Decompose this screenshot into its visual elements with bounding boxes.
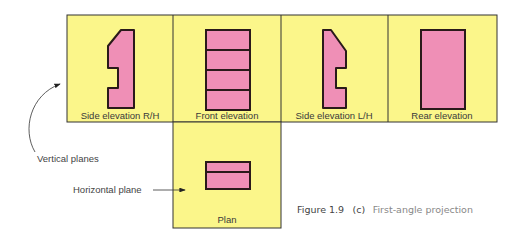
- figure-title: First-angle projection: [373, 204, 473, 215]
- plan-label: Plan: [217, 214, 236, 225]
- side-elevation-lh-label: Side elevation L/H: [295, 110, 372, 121]
- front-elevation-panel: Front elevation: [196, 30, 259, 121]
- figure-number: Figure 1.9: [297, 204, 344, 215]
- side-elevation-rh-label: Side elevation R/H: [81, 110, 160, 121]
- rear-elevation-panel: Rear elevation: [411, 30, 472, 121]
- plan-shape: [206, 162, 250, 189]
- first-angle-projection-diagram: Side elevation R/H Front elevation Side …: [0, 0, 517, 240]
- front-elevation-label: Front elevation: [196, 110, 259, 121]
- figure-caption: Figure 1.9 (c) First-angle projection: [297, 199, 473, 216]
- curved-arrow-icon: [29, 84, 60, 152]
- rear-elevation-label: Rear elevation: [411, 110, 472, 121]
- side-elevation-rh-shape: [108, 30, 134, 108]
- vertical-planes-label: Vertical planes: [37, 153, 99, 164]
- rear-elevation-shape: [421, 30, 465, 109]
- figure-part: (c): [353, 204, 366, 215]
- horizontal-plane-label: Horizontal plane: [73, 184, 142, 195]
